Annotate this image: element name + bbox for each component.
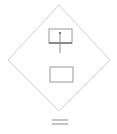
lower-rectangle <box>50 67 73 82</box>
equals-mark <box>52 120 68 124</box>
pointer-dot <box>59 32 61 34</box>
diagram-canvas: diamond upper rectangle lower rectangle … <box>0 0 117 134</box>
diamond-outline <box>8 5 110 111</box>
diagram-svg <box>0 0 117 134</box>
